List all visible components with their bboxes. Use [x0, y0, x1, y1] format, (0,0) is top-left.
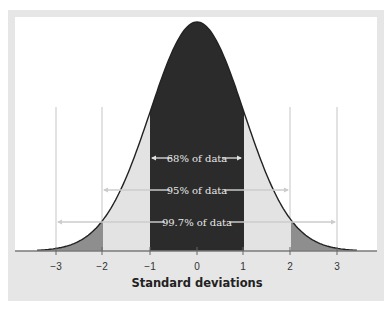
normal-distribution-chart: 68% of data 95% of data 99.7% of data −3…	[0, 0, 392, 311]
x-axis-tick-labels: −3 −2 −1 0 1 2 3	[50, 261, 340, 272]
band-997-label: 99.7% of data	[162, 217, 232, 228]
band-68-label: 68% of data	[167, 153, 228, 164]
tick-label: −3	[50, 261, 62, 272]
tick-label: 1	[240, 261, 246, 272]
tick-label: 0	[194, 261, 200, 272]
tick-label: 3	[334, 261, 340, 272]
tick-label: −1	[144, 261, 156, 272]
tick-label: 2	[287, 261, 293, 272]
tick-label: −2	[96, 261, 108, 272]
x-axis-title: Standard deviations	[131, 276, 262, 290]
band-95-label: 95% of data	[167, 185, 228, 196]
